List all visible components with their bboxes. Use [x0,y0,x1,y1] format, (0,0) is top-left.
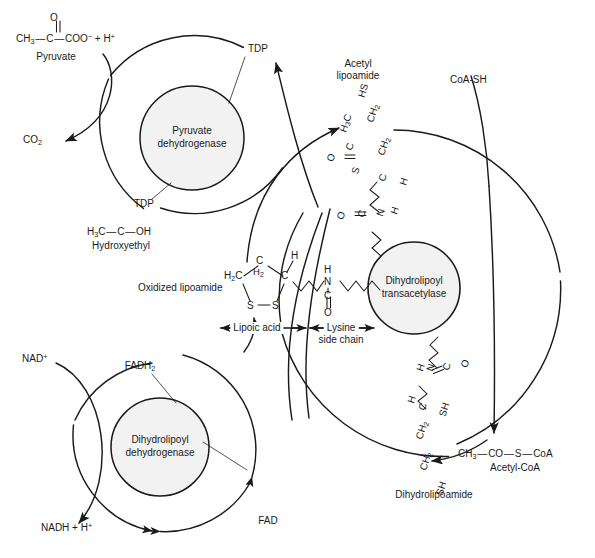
lipoic-acid-bracket-label: Lipoic acid [230,322,283,334]
lysine-bracket-label-line1: Lysine [324,322,359,334]
lysine-bracket-label-line2: side chain [318,334,363,346]
acetyl-coa-exit-arrow [489,186,494,433]
e1-enzyme-label-line2: dehydrogenase [158,138,227,150]
pathway-svg [0,0,595,558]
coa-sh-label: CoA-SH [450,74,487,86]
oxidized-lipoamide-atom-h-n: H [324,264,331,275]
pyruvate-carbonyl-o: O [50,12,58,24]
e1-leader-bottom [152,183,171,199]
oxidized-lipoamide-atom-h2c: H2C [224,270,242,283]
e2-outer-ring-arc-right [457,281,561,444]
coa-sh-entry-curve [471,76,489,186]
co2-label: CO2 [23,134,42,147]
nad-to-nadh-arrow [56,363,102,523]
to-tdp-top-arrow [276,63,318,207]
oxidized-lipoamide-atom-n: N [324,276,331,287]
hydroxyethyl-label: Hydroxyethyl [92,240,150,252]
oxidized-lipoamide-atom-s-left: S [247,300,254,311]
nad-plus-label: NAD+ [22,353,47,365]
e1-enzyme-label-line1: Pyruvate [172,125,211,137]
fadh2-label: FADH2 [125,360,156,373]
oxidized-lipoamide-atom-c-top: C [256,255,263,266]
oxidized-lipoamide-atom-o: O [324,307,332,318]
oxidized-lipoamide-atom-h: H [291,250,298,261]
acetyl-lipoamide-label-line2: lipoamide [337,70,380,82]
e3-link-arc [288,213,322,420]
e2-enzyme-label-line2: transacetylase [382,288,446,300]
lipoamide-ring-bond-4 [277,284,284,301]
pyruvate-to-co2-arrow [66,54,112,141]
acetyl-coa-formula: CH3 — CO — S — CoA [458,448,553,461]
fad-label: FAD [258,515,277,527]
e3-enzyme-label-line1: Dihydrolipoyl [131,434,188,446]
to-acetyl-lipoamide-arrow [247,128,339,262]
e1-outer-ring-arc-2 [100,79,144,209]
pyruvate-label: Pyruvate [36,51,75,63]
tdp-top-label: TDP [248,43,268,55]
lipoamide-ring-bond-3 [243,284,250,301]
oxidized-lipoamide-atom-h2-sub: H2 [253,266,264,278]
oxidized-lipoamide-label: Oxidized lipoamide [138,282,223,294]
oxidized-lipoamide-atom-s-right: S [272,300,279,311]
nadh-label: NADH + H+ [41,522,92,534]
e2-enzyme-label-line1: Dihydrolipoyl [385,275,442,287]
dihydrolipoamide-label: Dihydrolipoamide [395,489,472,501]
e3-leader-bottom [203,442,247,470]
e1-leader-top [229,57,245,103]
e1-outer-ring-arc [111,36,244,76]
e3-enzyme-label-line2: dehydrogenase [126,447,195,459]
oxidized-lipoamide-atom-c-right: C [281,270,288,281]
hydroxyethyl-formula: H3C — C — OH [87,226,151,239]
e2-outer-ring-arc-left [279,213,303,325]
acetyl-lipoamide-label-line1: Acetyl [344,58,371,70]
diagram-canvas: O CH3 — C — COO− + H+ Pyruvate CO2 TDP T… [0,0,595,558]
tdp-bottom-label: TDP [134,198,154,210]
acetyl-coa-label: Acetyl-CoA [490,462,540,474]
oxidized-lipoamide-atom-c: C [324,290,331,301]
pyruvate-formula: CH3 — C — COO− + H+ [16,33,115,46]
